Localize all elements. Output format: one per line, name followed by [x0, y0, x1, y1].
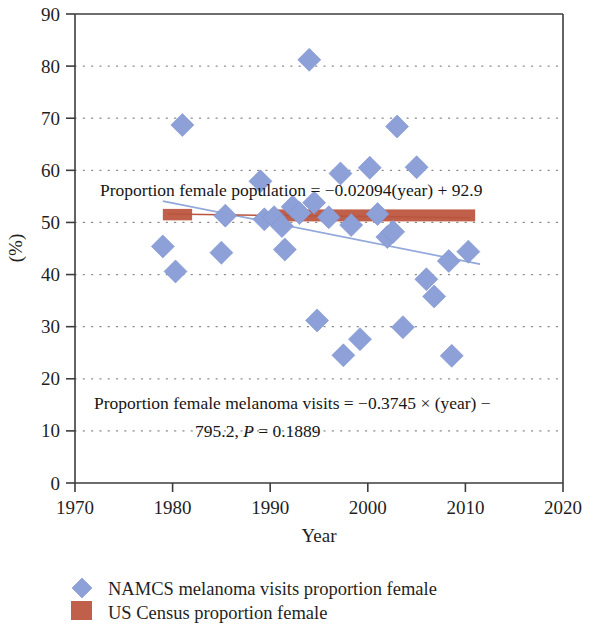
- scatter-point: [298, 48, 321, 71]
- scatter-point: [437, 250, 460, 273]
- legend-item-census: US Census proportion female: [71, 601, 327, 623]
- scatter-point: [210, 241, 233, 264]
- scatter-point: [214, 204, 237, 227]
- legend-label-census: US Census proportion female: [108, 603, 327, 623]
- y-tick-label-70: 70: [41, 108, 60, 129]
- y-tick-label-50: 50: [41, 212, 60, 233]
- y-tick-label-60: 60: [41, 160, 60, 181]
- x-tick-label-2020: 2020: [544, 497, 582, 518]
- melanoma-eq-p-symbol: P: [242, 421, 254, 441]
- y-axis-ticks: 0102030405060708090: [41, 4, 75, 494]
- melanoma-equation-line2: 795.2, P = 0.1889: [195, 421, 321, 441]
- x-tick-label-1970: 1970: [56, 497, 94, 518]
- x-tick-label-2000: 2000: [349, 497, 387, 518]
- y-tick-label-0: 0: [51, 473, 61, 494]
- scatter-point: [366, 203, 389, 226]
- x-axis-ticks: 197019801990200020102020: [56, 483, 582, 518]
- scatter-point: [405, 156, 428, 179]
- chart-canvas: 0102030405060708090 19701980199020002010…: [0, 0, 596, 628]
- scatter-point: [358, 156, 381, 179]
- scatter-point: [348, 328, 371, 351]
- y-axis-title: (%): [5, 234, 27, 262]
- y-tick-label-20: 20: [41, 368, 60, 389]
- y-tick-label-10: 10: [41, 420, 60, 441]
- legend-diamond-icon: [72, 578, 92, 598]
- x-tick-label-2010: 2010: [446, 497, 484, 518]
- melanoma-eq-p-value: = 0.1889: [254, 421, 321, 441]
- y-tick-label-90: 90: [41, 4, 60, 25]
- legend-square-icon: [71, 601, 92, 620]
- scatter-point: [317, 206, 340, 229]
- scatter-point: [151, 235, 174, 258]
- legend-label-namcs: NAMCS melanoma visits proportion female: [108, 579, 437, 599]
- scatter-point: [306, 309, 329, 332]
- scatter-point: [391, 316, 414, 339]
- scatter-point: [332, 344, 355, 367]
- legend-item-namcs: NAMCS melanoma visits proportion female: [72, 578, 437, 599]
- scatter-point: [386, 115, 409, 138]
- melanoma-eq-constant: 795.2,: [195, 421, 243, 441]
- x-tick-label-1990: 1990: [251, 497, 289, 518]
- x-tick-label-1980: 1980: [154, 497, 192, 518]
- legend: NAMCS melanoma visits proportion female …: [71, 578, 437, 623]
- scatter-point: [273, 238, 296, 261]
- melanoma-equation-line1: Proportion female melanoma visits = −0.3…: [94, 393, 491, 413]
- y-tick-label-30: 30: [41, 316, 60, 337]
- scatter-point: [171, 113, 194, 136]
- melanoma-proportion-female-figure: 0102030405060708090 19701980199020002010…: [0, 0, 596, 628]
- scatter-point: [440, 344, 463, 367]
- y-tick-label-80: 80: [41, 56, 60, 77]
- scatter-point: [164, 260, 187, 283]
- gridlines-group: [75, 66, 563, 431]
- population-equation-text: Proportion female population = −0.02094(…: [100, 180, 483, 200]
- y-tick-label-40: 40: [41, 264, 60, 285]
- x-axis-title: Year: [301, 525, 337, 546]
